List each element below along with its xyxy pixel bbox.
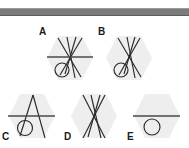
figure-label-c: C bbox=[2, 132, 9, 142]
figure-e[interactable] bbox=[133, 92, 181, 140]
figure-a[interactable] bbox=[46, 34, 94, 82]
figure-panel: A B C D bbox=[0, 0, 189, 148]
figure-c[interactable] bbox=[8, 92, 56, 140]
figure-label-d: D bbox=[64, 132, 71, 142]
figure-label-a: A bbox=[39, 27, 46, 37]
figure-label-b: B bbox=[98, 27, 105, 37]
figure-label-e: E bbox=[127, 132, 134, 142]
figure-b[interactable] bbox=[105, 34, 153, 82]
figure-d[interactable] bbox=[70, 92, 118, 140]
gray-divider-bar bbox=[0, 8, 189, 16]
